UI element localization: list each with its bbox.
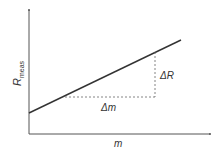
delta-m-label: Δm — [100, 102, 116, 113]
y-axis-subscript: meas — [18, 60, 25, 78]
y-axis-arrow-icon — [28, 9, 30, 11]
diagram-canvas: ΔR Δm m R meas — [0, 0, 222, 154]
x-axis-label: m — [114, 138, 122, 149]
y-axis-label-group: R meas — [11, 60, 25, 86]
y-axis-label: R — [11, 78, 23, 86]
x-axis-arrow-icon — [209, 133, 211, 135]
delta-r-label: ΔR — [159, 70, 174, 81]
